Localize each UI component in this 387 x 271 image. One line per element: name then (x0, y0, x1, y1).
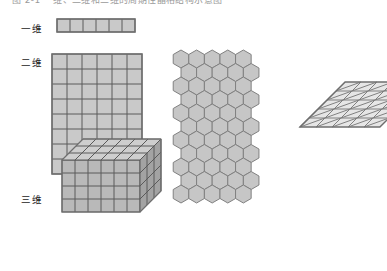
lattice-drawing-canvas (0, 0, 387, 271)
two-dimensional-hexagonal-lattice (173, 50, 259, 203)
two-dimensional-square-lattice (52, 54, 142, 174)
dimension-label-3d: 三维 (21, 192, 42, 206)
lattice-dimension-figure: 图 2-1 一维、二维和三维的周期性晶格结构示意图 一维 二维 三维 (0, 0, 387, 271)
dimension-label-2d: 二维 (21, 55, 42, 69)
one-dimensional-chain (57, 19, 135, 32)
figure-caption-text: 图 2-1 一维、二维和三维的周期性晶格结构示意图 (12, 0, 222, 6)
two-dimensional-triangular-lattice (300, 82, 387, 127)
three-dimensional-cubic-lattice (62, 139, 161, 212)
dimension-label-1d: 一维 (21, 21, 42, 35)
figure-caption-clipped: 图 2-1 一维、二维和三维的周期性晶格结构示意图 (0, 0, 387, 7)
